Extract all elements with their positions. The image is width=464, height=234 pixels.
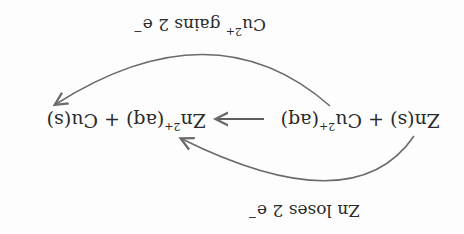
reactant-cu-ion: Cu2+(aq) xyxy=(281,110,362,132)
redox-diagram: Zn loses 2 e− Zn(s) + Cu2+(aq) Zn2+(aq) … xyxy=(0,0,464,234)
reactant-zn: Zn(s) xyxy=(390,110,440,132)
rotated-content: Zn loses 2 e− Zn(s) + Cu2+(aq) Zn2+(aq) … xyxy=(0,0,464,234)
plus-sign: + xyxy=(104,110,120,132)
zn-loses-label: Zn loses 2 e− xyxy=(248,201,360,224)
cu-gains-label: Cu2+ gains 2 e− xyxy=(133,15,266,38)
plus-sign: + xyxy=(368,110,384,132)
product-zn-ion: Zn2+(aq) xyxy=(126,110,206,132)
cu-gain-arc xyxy=(56,54,330,106)
reactants: Zn(s) + Cu2+(aq) xyxy=(281,110,440,133)
products: Zn2+(aq) + Cu(s) xyxy=(47,110,206,133)
zn-loss-arc xyxy=(182,136,414,181)
product-cu: Cu(s) xyxy=(47,110,98,132)
